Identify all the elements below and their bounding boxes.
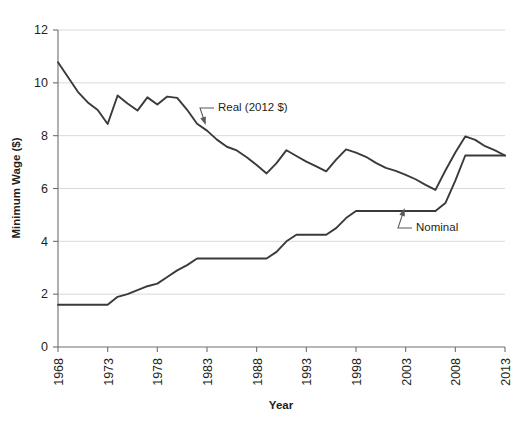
y-axis-tick-label: 4 [41,235,48,249]
y-axis-tick-label: 0 [41,340,48,354]
x-axis-title: Year [269,399,294,411]
x-axis-tick-label: 1968 [52,358,66,386]
annotation-leader-line [200,108,214,123]
annotation-leader-line [398,210,412,228]
series-line-real-2012 [58,62,505,190]
chart-canvas: 024681012 196819731978198319881993199820… [0,0,528,424]
x-axis-tick-label: 1973 [102,358,116,386]
x-axis-tick-label: 1978 [151,358,165,386]
y-axis-tick-label: 10 [34,76,48,90]
nominal-series-label: Nominal [416,221,458,233]
plot-series [58,62,505,305]
y-axis-tick-label: 6 [41,182,48,196]
minimum-wage-line-chart: 024681012 196819731978198319881993199820… [0,0,528,424]
y-axis-tick-label: 12 [34,23,48,37]
annotation-arrowhead [399,208,405,217]
x-axis-tick-label: 2008 [449,358,463,386]
x-axis-tick-label: 1998 [350,358,364,386]
gridlines [58,30,505,294]
y-axis-title: Minimum Wage ($) [10,137,22,238]
real-series-label: Real (2012 $) [218,101,288,113]
x-axis-tick-label: 2013 [499,358,513,386]
x-axis: 1968197319781983198819931998200320082013 [52,347,513,386]
y-axis-tick-label: 8 [41,129,48,143]
annotation-arrowhead [200,116,206,125]
x-axis-tick-label: 1988 [251,358,265,386]
x-axis-tick-label: 2003 [400,358,414,386]
x-axis-tick-label: 1993 [300,358,314,386]
y-axis: 024681012 [34,23,58,354]
x-axis-tick-label: 1983 [201,358,215,386]
y-axis-tick-label: 2 [41,287,48,301]
